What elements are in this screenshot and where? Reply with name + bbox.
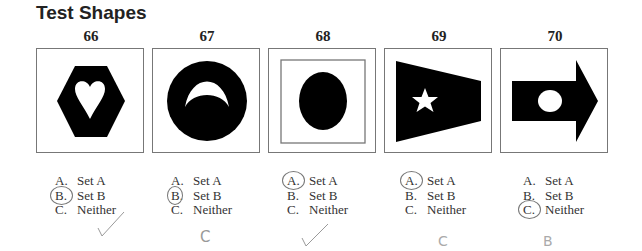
option-c[interactable]: C.Neither [171,203,232,218]
question-number: 69 [384,26,494,48]
question-68: 68 [268,26,378,153]
answer-options-69: A.Set A B.Set B C.Neither [405,174,466,218]
option-b[interactable]: B.Set B [171,189,232,204]
hexagon-heart-icon [37,49,143,152]
answer-options-67: A.Set A B.Set B C.Neither [171,174,232,218]
page-title: Test Shapes [36,2,147,24]
grade-mark: C [200,228,210,246]
option-a[interactable]: A.Set A [405,174,466,189]
option-b[interactable]: B.Set B [55,189,116,204]
grade-mark: C [438,233,448,249]
question-number: 67 [152,26,262,48]
shape-box [500,48,608,153]
answer-options-68: A.Set A B.Set B C.Neither [287,174,348,218]
question-70: 70 [500,26,610,153]
question-69: 69 [384,26,494,153]
checkmark-icon [96,210,126,238]
question-number: 66 [36,26,146,48]
question-number: 68 [268,26,378,48]
arrow-circle-icon [501,49,607,152]
question-number: 70 [500,26,610,48]
shape-box [268,48,376,153]
checkmark-icon [300,222,330,248]
answer-options-70: A.Set A B.Set B C.Neither [523,174,584,218]
selection-circle [518,200,541,219]
question-66: 66 [36,26,146,153]
option-b[interactable]: B.Set B [287,189,348,204]
shape-box [36,48,144,153]
option-b[interactable]: B.Set B [405,189,466,204]
option-c[interactable]: C.Neither [287,203,348,218]
option-c[interactable]: C.Neither [405,203,466,218]
option-a[interactable]: A.Set A [523,174,584,189]
question-67: 67 [152,26,262,153]
grade-mark: B [543,233,553,249]
option-c[interactable]: C.Neither [523,203,584,218]
option-a[interactable]: A.Set A [287,174,348,189]
shape-box [384,48,492,153]
circle-crescent-icon [153,49,259,152]
shape-box [152,48,260,153]
option-a[interactable]: A.Set A [171,174,232,189]
flag-star-icon [385,49,491,152]
oval-in-square-icon [269,49,375,152]
